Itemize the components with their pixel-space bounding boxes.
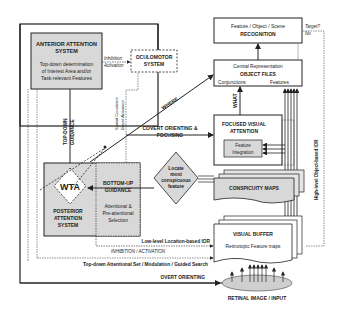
svg-text:SYSTEM: SYSTEM xyxy=(55,48,78,54)
svg-text:RECOGNITION: RECOGNITION xyxy=(240,31,276,37)
svg-text:Pre-attentional: Pre-attentional xyxy=(102,211,133,216)
locate-diamond: Locate most conspicuous feature xyxy=(154,152,198,204)
svg-text:ATTENTION: ATTENTION xyxy=(54,215,83,221)
svg-text:SYSTEM: SYSTEM xyxy=(144,61,165,67)
visual-buffer: VISUAL BUFFER Retinotopic Feature maps xyxy=(214,216,302,263)
svg-text:Integration: Integration xyxy=(232,150,254,155)
svg-text:feature: feature xyxy=(168,184,184,189)
posterior-attention-system: WTA POSTERIOR ATTENTION SYSTEM BOTTOM-UP… xyxy=(44,163,140,236)
svg-text:Locate: Locate xyxy=(168,166,184,171)
svg-text:ANTERIOR ATTENTION: ANTERIOR ATTENTION xyxy=(36,41,97,47)
svg-text:Central Representation: Central Representation xyxy=(233,64,283,69)
conspicuity-maps: CONSPICUITY MAPS xyxy=(214,170,304,203)
svg-text:Feature / Object / Scene: Feature / Object / Scene xyxy=(231,23,285,29)
activation-label: Activation xyxy=(103,63,124,68)
overt-orienting-label: OVERT ORIENTING xyxy=(160,275,205,280)
where-label: WHERE xyxy=(160,95,179,111)
svg-text:GUIDANCE: GUIDANCE xyxy=(70,119,75,145)
svg-text:Based Activation: Based Activation xyxy=(120,100,125,130)
svg-text:of Interest Area and/or: of Interest Area and/or xyxy=(42,68,92,74)
svg-text:BOTTOM-UP: BOTTOM-UP xyxy=(103,180,134,186)
svg-text:FOCUSING: FOCUSING xyxy=(157,132,184,138)
high-level-ior-label: High-level Object-based IOR xyxy=(314,139,319,200)
inhibition-activation-label: INHIBITION / ACTIVATION xyxy=(111,249,166,254)
svg-text:Attentional &: Attentional & xyxy=(104,204,132,209)
svg-text:POSTERIOR: POSTERIOR xyxy=(53,208,83,214)
svg-text:FOCUSED VISUAL: FOCUSED VISUAL xyxy=(222,121,266,127)
svg-text:OBJECT FILES: OBJECT FILES xyxy=(240,71,277,77)
svg-text:Features: Features xyxy=(270,80,290,85)
oculomotor-system: OCULOMOTOR SYSTEM xyxy=(131,50,177,72)
svg-text:VISUAL BUFFER: VISUAL BUFFER xyxy=(233,231,273,237)
top-down-label: TOP-DOWN xyxy=(63,118,68,145)
svg-text:conspicuous: conspicuous xyxy=(161,178,191,183)
retinal-image: RETINAL IMAGE / INPUT xyxy=(222,265,292,301)
recognition-box: Feature / Object / Scene RECOGNITION xyxy=(214,18,302,43)
svg-text:most: most xyxy=(170,172,182,177)
svg-text:Task-relevant Features: Task-relevant Features xyxy=(41,75,92,81)
target-label: Target? xyxy=(305,24,321,29)
svg-text:Retinotopic Feature maps: Retinotopic Feature maps xyxy=(226,244,282,249)
svg-text:Selection: Selection xyxy=(108,218,128,223)
svg-text:ATTENTION: ATTENTION xyxy=(230,128,259,134)
object-files-box: Central Representation OBJECT FILES Conj… xyxy=(214,60,302,86)
svg-text:RETINAL IMAGE / INPUT: RETINAL IMAGE / INPUT xyxy=(228,295,287,301)
svg-text:OCULOMOTOR: OCULOMOTOR xyxy=(136,54,173,60)
focused-visual-attention-box: FOCUSED VISUAL ATTENTION Feature Integra… xyxy=(214,115,282,165)
no-label: No xyxy=(305,31,311,36)
svg-text:CONSPICUITY MAPS: CONSPICUITY MAPS xyxy=(229,185,280,191)
low-level-ior-label: Low-level Location-based IOR xyxy=(142,239,211,244)
top-down-set-label: Top-down Attentional Set / Modulation / … xyxy=(83,262,208,267)
covert-orienting-label: COVERT ORIENTING & xyxy=(142,125,197,131)
spatial-label: Spatial Coordinate xyxy=(114,96,119,130)
attention-model-diagram: ANTERIOR ATTENTION SYSTEM Top-down deter… xyxy=(0,0,344,313)
svg-text:Conjunctions: Conjunctions xyxy=(218,80,246,85)
wta-label: WTA xyxy=(60,182,80,192)
inhibition-label: Inhibition xyxy=(104,56,123,61)
svg-text:Top-down determination: Top-down determination xyxy=(40,61,94,67)
svg-text:Feature: Feature xyxy=(235,143,251,148)
anterior-attention-system: ANTERIOR ATTENTION SYSTEM Top-down deter… xyxy=(31,33,102,89)
svg-text:SYSTEM: SYSTEM xyxy=(58,222,79,228)
what-label: WHAT xyxy=(232,93,238,108)
